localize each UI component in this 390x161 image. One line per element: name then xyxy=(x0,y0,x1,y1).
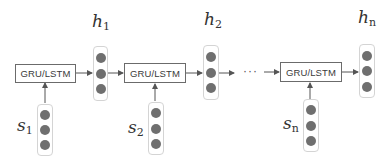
label-h1: h1 xyxy=(92,13,110,32)
hidden-vector-hn xyxy=(359,44,375,98)
label-hn: hn xyxy=(358,9,376,28)
vector-element xyxy=(206,68,216,78)
vector-element xyxy=(40,110,50,120)
input-vector-s2 xyxy=(148,102,164,155)
ellipsis: ··· xyxy=(243,64,258,78)
input-vector-sn xyxy=(303,99,319,152)
label-sn: sn xyxy=(283,115,299,134)
vector-element xyxy=(206,83,216,93)
vector-element xyxy=(306,136,316,146)
vector-element xyxy=(96,69,106,79)
hidden-vector-h2 xyxy=(203,45,219,100)
input-vector-s1 xyxy=(37,104,53,156)
gru-lstm-cell-n: GRU/LSTM xyxy=(280,62,342,82)
vector-element xyxy=(306,105,316,115)
vector-element xyxy=(151,139,161,149)
vector-element xyxy=(206,52,216,62)
vector-element xyxy=(40,140,50,150)
label-h2: h2 xyxy=(204,11,222,30)
hidden-vector-h1 xyxy=(93,46,108,101)
gru-lstm-cell-2: GRU/LSTM xyxy=(124,63,186,83)
vector-element xyxy=(151,124,161,134)
label-s1: s1 xyxy=(17,117,33,136)
vector-element xyxy=(40,125,50,135)
vector-element xyxy=(306,121,316,131)
vector-element xyxy=(362,82,372,92)
vector-element xyxy=(362,66,372,76)
vector-element xyxy=(151,108,161,118)
vector-element xyxy=(362,51,372,61)
gru-lstm-cell-1: GRU/LSTM xyxy=(15,64,76,83)
label-s2: s2 xyxy=(128,119,144,138)
vector-element xyxy=(96,84,106,94)
vector-element xyxy=(96,53,106,63)
rnn-diagram: GRU/LSTM h1 s1 GRU/LSTM h2 s2 ··· GRU/LS… xyxy=(0,0,390,161)
